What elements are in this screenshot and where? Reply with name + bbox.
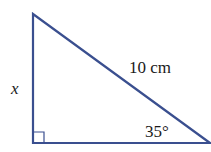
right-angle-marker (33, 132, 44, 143)
angle-label: 35° (145, 122, 169, 141)
side-x-label: x (10, 79, 19, 98)
hypotenuse-label: 10 cm (129, 58, 171, 77)
triangle (33, 14, 210, 143)
triangle-diagram: 10 cm x 35° (0, 0, 211, 152)
